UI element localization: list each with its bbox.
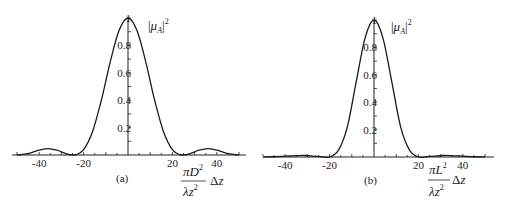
y-tick-label: 0.4 <box>117 94 131 106</box>
x-tick-label: -40 <box>278 159 293 171</box>
x-tick-label: 40 <box>211 157 223 169</box>
x-tick-label: 40 <box>457 159 469 171</box>
y-tick-label: 0.4 <box>363 96 377 108</box>
figure: -40-202040 0.20.40.60.81 |μA|2 (a) πD2 λ… <box>0 0 508 210</box>
y-tick-label: 0.8 <box>363 41 377 53</box>
x-tick-label: 20 <box>413 159 425 171</box>
y-tick-label: 0.2 <box>117 122 131 134</box>
x-tick-label: -40 <box>32 157 47 169</box>
svg-text:Δz: Δz <box>210 173 223 188</box>
svg-text:πD2: πD2 <box>183 163 203 179</box>
x-tick-label: 20 <box>167 157 179 169</box>
svg-text:πL2: πL2 <box>429 161 447 177</box>
y-tick-label: 0.6 <box>117 67 131 79</box>
x-tick-label: -20 <box>76 157 91 169</box>
panel-b-chart: -40-202040 0.20.40.60.81 |μA|2 (b) πL2 λ… <box>263 14 494 199</box>
panel-label: (a) <box>116 172 129 185</box>
y-axis-label: |μA|2 <box>391 18 412 36</box>
panel-label: (b) <box>364 174 377 187</box>
y-ticks: 0.20.40.60.81 <box>363 14 377 143</box>
y-axis-label: |μA|2 <box>148 17 169 35</box>
svg-text:λz2: λz2 <box>428 183 444 199</box>
svg-text:Δz: Δz <box>452 172 465 187</box>
panel-a-chart: -40-202040 0.20.40.60.81 |μA|2 (a) πD2 λ… <box>12 12 246 199</box>
svg-text:λz2: λz2 <box>182 183 198 199</box>
y-tick-label: 0.8 <box>117 39 131 51</box>
y-tick-label: 0.2 <box>363 124 377 136</box>
y-tick-label: 0.6 <box>363 69 377 81</box>
x-tick-label: -20 <box>322 159 337 171</box>
